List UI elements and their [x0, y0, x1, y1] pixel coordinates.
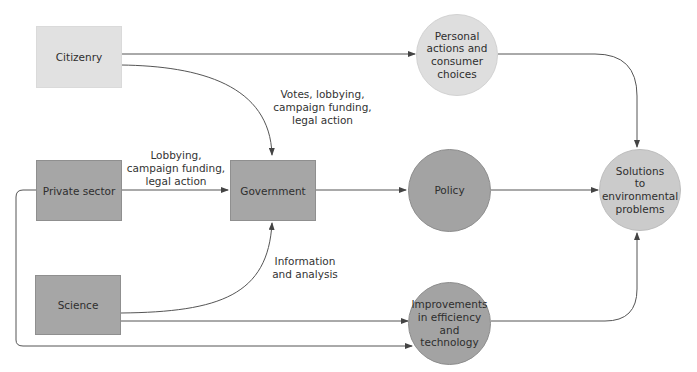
edge-label-citizenry-government: Votes, lobbying, campaign funding, legal…: [265, 88, 380, 127]
node-private-sector: Private sector: [36, 160, 122, 221]
edge-improvements-solutions: [491, 233, 637, 321]
edge-label-science-government: Information and analysis: [270, 255, 340, 281]
node-personal-actions: Personal actions and consumer choices: [416, 14, 498, 96]
edge-citizenry-government: [121, 65, 272, 155]
node-government-label: Government: [240, 185, 305, 197]
node-improvements-label: Improvements in efficiency and technolog…: [411, 298, 487, 348]
node-policy: Policy: [408, 149, 491, 232]
edge-personal-solutions: [498, 54, 637, 147]
node-science-label: Science: [58, 299, 99, 311]
node-solutions-label: Solutions to environmental problems: [602, 165, 678, 215]
node-solutions: Solutions to environmental problems: [599, 149, 681, 231]
node-citizenry-label: Citizenry: [56, 51, 102, 63]
edge-label-private-government: Lobbying, campaign funding, legal action: [120, 149, 232, 188]
node-improvements: Improvements in efficiency and technolog…: [408, 282, 491, 365]
node-policy-label: Policy: [434, 184, 464, 197]
node-personal-actions-label: Personal actions and consumer choices: [427, 30, 488, 80]
edge-science-government: [121, 223, 272, 313]
node-citizenry: Citizenry: [36, 26, 122, 88]
node-science: Science: [35, 275, 121, 335]
node-government: Government: [230, 160, 316, 221]
node-private-sector-label: Private sector: [43, 185, 116, 197]
